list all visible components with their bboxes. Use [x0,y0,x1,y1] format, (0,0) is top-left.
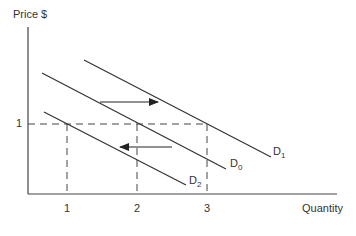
d0-label-main: D [230,157,238,169]
x-tick-3: 3 [204,203,210,214]
d2-label-main: D [189,174,197,186]
d2-label-sub: 2 [197,180,201,189]
x-tick-2: 2 [134,203,140,214]
d1-label-main: D [273,145,281,157]
d2-label: D2 [189,175,201,186]
demand-curve-d1 [84,60,271,157]
x-tick-1: 1 [64,203,70,214]
d1-label-sub: 1 [281,151,285,160]
d0-label-sub: 0 [238,163,242,172]
x-axis-label: Quantity [302,203,343,214]
demand-shift-chart [0,0,356,236]
demand-curve-d2 [44,112,186,185]
d0-label: D0 [230,158,242,169]
d1-label: D1 [273,146,285,157]
y-tick-1: 1 [16,118,22,129]
demand-curve-d0 [42,73,226,169]
y-axis-label: Price $ [13,9,47,20]
